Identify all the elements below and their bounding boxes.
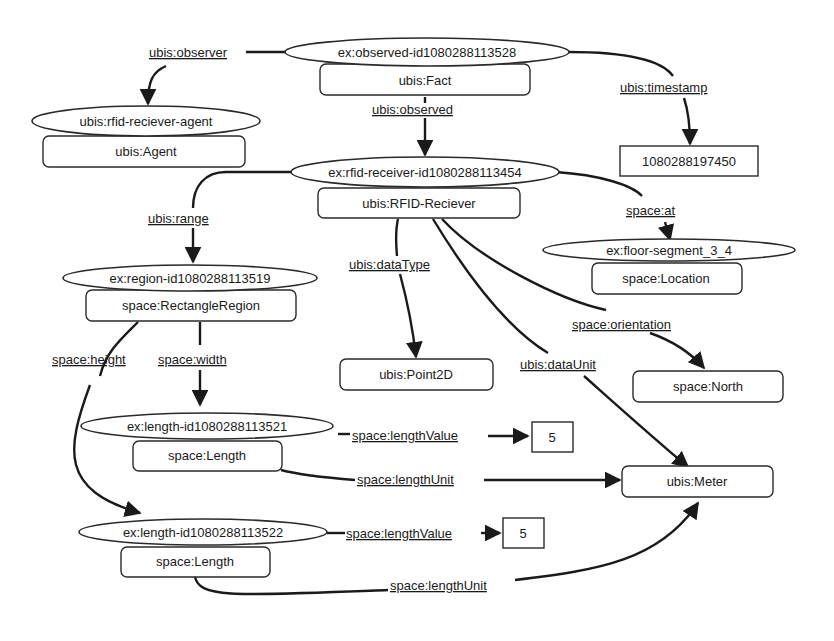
node-rfid-receiver: ex:rfid-receiver-id1080288113454 ubis:RF… <box>291 157 559 218</box>
edge-label-height: space:height <box>52 352 126 367</box>
node-value1-literal: 5 <box>532 422 573 452</box>
node-length2-type: space:Length <box>156 554 234 569</box>
node-value2-label: 5 <box>519 526 526 541</box>
edge-dataunit-line <box>433 219 548 353</box>
edge-at-arrow <box>665 222 670 240</box>
node-length1-id: ex:length-id1080288113521 <box>127 419 287 434</box>
edge-timestamp-arrow <box>684 98 690 144</box>
edge-label-timestamp: ubis:timestamp <box>620 80 707 95</box>
edge-label-range: ubis:range <box>148 211 209 226</box>
edge-label-observer: ubis:observer <box>149 45 228 60</box>
edge-datatype-line <box>396 219 398 256</box>
node-timestamp-literal: 1080288197450 <box>620 146 758 176</box>
node-agent: ubis:rfid-reciever-agent ubis:Agent <box>32 106 260 167</box>
node-north: space:North <box>633 371 783 402</box>
edge-label-lengthunit1: space:lengthUnit <box>357 472 454 487</box>
node-receiver-type: ubis:RFID-Reciever <box>362 196 476 211</box>
node-value2-literal: 5 <box>503 518 544 548</box>
edge-datatype-arrow <box>400 274 416 357</box>
node-value1-label: 5 <box>548 430 555 445</box>
edge-timestamp-line <box>569 52 673 76</box>
node-length2-id: ex:length-id1080288113522 <box>123 525 283 540</box>
node-observed-fact: ex:observed-id1080288113528 ubis:Fact <box>285 38 569 95</box>
node-floor-id: ex:floor-segment_3_4 <box>606 243 732 258</box>
node-point2d: ubis:Point2D <box>340 359 493 390</box>
edge-label-lengthunit2: space:lengthUnit <box>390 578 487 593</box>
node-region: ex:region-id1080288113519 space:Rectangl… <box>63 265 317 321</box>
rdf-graph-diagram: ubis:observer ubis:observed ubis:timesta… <box>0 0 834 641</box>
node-length1-type: space:Length <box>168 448 246 463</box>
edge-height-arrow <box>74 385 140 513</box>
edge-label-lengthvalue2: space:lengthValue <box>346 526 452 541</box>
edge-label-orientation: space:orientation <box>572 317 671 332</box>
edge-label-datatype: ubis:dataType <box>349 257 430 272</box>
node-meter: ubis:Meter <box>622 466 773 497</box>
edge-orientation-arrow <box>650 333 704 368</box>
node-length-2: ex:length-id1080288113522 space:Length <box>79 519 327 577</box>
node-meter-label: ubis:Meter <box>667 474 728 489</box>
edge-label-at: space:at <box>626 203 676 218</box>
node-length-1: ex:length-id1080288113521 space:Length <box>81 413 333 471</box>
node-floor-type: space:Location <box>622 271 709 286</box>
node-receiver-id: ex:rfid-receiver-id1080288113454 <box>328 165 521 180</box>
node-agent-id: ubis:rfid-reciever-agent <box>80 114 213 129</box>
edge-range-line <box>193 172 292 208</box>
edge-observer-arrow <box>148 66 166 104</box>
edge-lengthunit1-line <box>281 470 355 480</box>
edge-height-line <box>100 322 138 376</box>
edge-label-dataunit: ubis:dataUnit <box>520 357 596 372</box>
node-north-label: space:North <box>673 379 743 394</box>
node-region-id: ex:region-id1080288113519 <box>110 271 271 286</box>
edge-lengthunit2-line <box>195 577 388 594</box>
edge-label-observed: ubis:observed <box>372 102 453 117</box>
node-observed-id: ex:observed-id1080288113528 <box>338 45 516 60</box>
node-floor-segment: ex:floor-segment_3_4 space:Location <box>543 239 795 294</box>
edge-label-lengthvalue1: space:lengthValue <box>352 428 458 443</box>
node-agent-type: ubis:Agent <box>115 144 177 159</box>
node-timestamp-value: 1080288197450 <box>642 154 736 169</box>
edge-orientation-line <box>442 219 606 310</box>
node-region-type: space:RectangleRegion <box>122 298 260 313</box>
node-observed-type: ubis:Fact <box>399 73 452 88</box>
edge-label-width: space:width <box>158 352 227 367</box>
node-point2d-label: ubis:Point2D <box>379 367 453 382</box>
